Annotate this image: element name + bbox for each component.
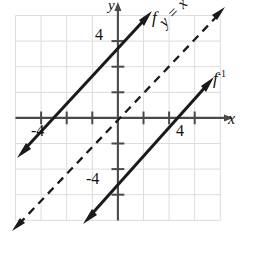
curve-label-f-inverse-exponent: -1 [218,68,226,79]
graph-figure: f f-1 y = x x y 4 4 -4 -4 [0,0,254,253]
x-axis-tick-label-neg4: -4 [31,122,44,140]
x-axis-label: x [228,110,235,128]
y-axis-tick-label-neg4: -4 [86,170,99,188]
curve-label-f-inverse: f-1 [213,68,226,89]
y-axis-label: y [108,0,115,14]
x-axis-tick-label-4: 4 [176,122,184,140]
y-axis-tick-label-4: 4 [95,26,103,44]
